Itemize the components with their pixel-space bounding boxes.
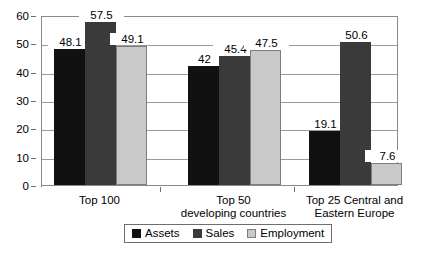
- chart-legend: AssetsSalesEmployment: [124, 224, 332, 243]
- bar-group: 19.150.67.6: [309, 17, 402, 185]
- bar-employment: [371, 163, 402, 185]
- bar-value-label: 47.5: [244, 37, 289, 49]
- x-axis-category-label: Top 25 Central and Eastern Europe: [285, 194, 424, 220]
- bar-assets: [54, 49, 85, 185]
- y-axis-tick-mark: [31, 129, 36, 130]
- grouped-bar-chart: 0102030405060 48.157.549.14245.447.519.1…: [0, 0, 424, 254]
- bar-employment: [250, 50, 281, 185]
- bar-value-label: 50.6: [334, 29, 379, 41]
- y-axis-tick-mark: [31, 16, 36, 17]
- bar-value-label: 57.5: [79, 9, 124, 21]
- bar-group: 4245.447.5: [188, 17, 281, 185]
- y-axis-tick-label: 60: [0, 11, 29, 22]
- bar-value-label: 7.6: [365, 150, 410, 162]
- plot-area: 48.157.549.14245.447.519.150.67.6: [41, 16, 398, 186]
- y-axis-tick-label: 0: [0, 181, 29, 192]
- legend-item-assets[interactable]: Assets: [132, 227, 180, 240]
- x-axis-tick-mark: [294, 187, 295, 192]
- y-axis: 0102030405060: [0, 16, 36, 186]
- legend-label: Sales: [206, 227, 235, 240]
- bar-group: 48.157.549.1: [54, 17, 147, 185]
- bar-value-label: 49.1: [110, 33, 155, 45]
- bar-assets: [188, 66, 219, 185]
- x-axis-category-label: Top 100: [30, 194, 170, 207]
- y-axis-tick-label: 50: [0, 39, 29, 50]
- y-axis-tick-label: 20: [0, 124, 29, 135]
- y-axis-tick-label: 10: [0, 153, 29, 164]
- y-axis-tick-mark: [31, 44, 36, 45]
- bar-sales: [340, 42, 371, 185]
- bar-sales: [85, 22, 116, 185]
- x-axis: Top 100Top 50 developing countriesTop 25…: [41, 187, 398, 227]
- y-axis-tick-mark: [31, 101, 36, 102]
- legend-swatch-icon: [193, 229, 202, 238]
- bar-sales: [219, 56, 250, 185]
- bar-assets: [309, 131, 340, 185]
- legend-item-sales[interactable]: Sales: [193, 227, 235, 240]
- legend-label: Assets: [145, 227, 180, 240]
- y-axis-tick-mark: [31, 186, 36, 187]
- y-axis-tick-label: 40: [0, 68, 29, 79]
- y-axis-tick-label: 30: [0, 96, 29, 107]
- x-axis-tick-mark: [160, 187, 161, 192]
- legend-item-employment[interactable]: Employment: [247, 227, 324, 240]
- x-axis-category-label: Top 50 developing countries: [164, 194, 304, 220]
- y-axis-tick-mark: [31, 158, 36, 159]
- bar-employment: [116, 46, 147, 185]
- legend-label: Employment: [260, 227, 324, 240]
- y-axis-tick-mark: [31, 73, 36, 74]
- legend-swatch-icon: [132, 229, 141, 238]
- legend-swatch-icon: [247, 229, 256, 238]
